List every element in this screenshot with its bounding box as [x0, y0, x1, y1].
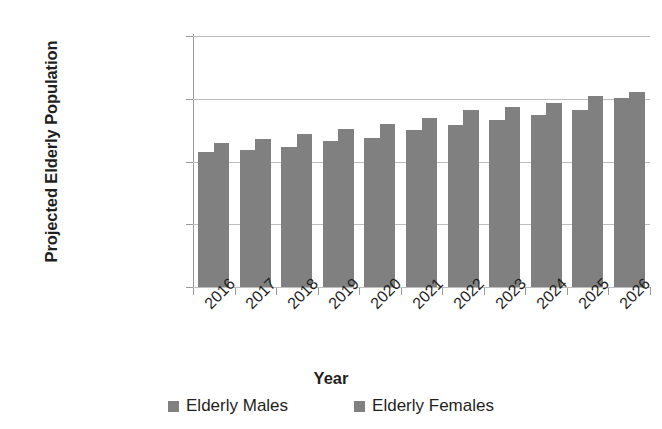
bar-group — [406, 36, 437, 287]
bar-group — [572, 36, 603, 287]
bar-group — [198, 36, 229, 287]
bar-female-2017[interactable] — [255, 139, 271, 287]
legend-label: Elderly Females — [372, 396, 494, 416]
bars-container — [193, 36, 650, 287]
bar-male-2024[interactable] — [531, 115, 547, 287]
bar-female-2020[interactable] — [380, 124, 396, 287]
legend-swatch-icon — [168, 401, 179, 412]
bar-male-2021[interactable] — [406, 130, 422, 287]
x-tick-mark — [193, 288, 194, 295]
legend-entry[interactable]: Elderly Females — [354, 396, 494, 416]
legend-swatch-icon — [354, 401, 365, 412]
bar-male-2025[interactable] — [572, 110, 588, 287]
bar-male-2017[interactable] — [240, 150, 256, 287]
y-tick-mark — [186, 224, 193, 225]
bar-group — [448, 36, 479, 287]
bar-female-2016[interactable] — [214, 143, 230, 287]
bar-male-2016[interactable] — [198, 152, 214, 287]
bar-female-2021[interactable] — [422, 118, 438, 287]
legend-label: Elderly Males — [186, 396, 288, 416]
bar-group — [614, 36, 645, 287]
bar-male-2019[interactable] — [323, 141, 339, 287]
bar-group — [240, 36, 271, 287]
y-tick-mark — [186, 36, 193, 37]
y-axis-title: Projected Elderly Population — [42, 22, 61, 282]
bar-male-2020[interactable] — [364, 138, 380, 287]
chart-legend: Elderly MalesElderly Females — [0, 396, 662, 416]
bar-group — [531, 36, 562, 287]
bar-female-2018[interactable] — [297, 134, 313, 287]
bar-female-2023[interactable] — [505, 107, 521, 287]
y-tick-mark — [186, 99, 193, 100]
bar-female-2024[interactable] — [546, 103, 562, 287]
bar-group — [489, 36, 520, 287]
bar-group — [323, 36, 354, 287]
bar-male-2026[interactable] — [614, 98, 630, 287]
legend-entry[interactable]: Elderly Males — [168, 396, 288, 416]
bar-male-2023[interactable] — [489, 120, 505, 287]
y-tick-mark — [186, 287, 193, 288]
bar-female-2022[interactable] — [463, 110, 479, 287]
bar-male-2018[interactable] — [281, 147, 297, 287]
bar-female-2026[interactable] — [629, 92, 645, 287]
bar-female-2019[interactable] — [338, 129, 354, 287]
bar-group — [281, 36, 312, 287]
bar-group — [364, 36, 395, 287]
bar-male-2022[interactable] — [448, 125, 464, 287]
x-axis-title: Year — [0, 369, 662, 388]
y-tick-mark — [186, 162, 193, 163]
bar-female-2025[interactable] — [588, 96, 604, 287]
bar-chart: Projected Elderly Population 0200,000400… — [0, 0, 662, 429]
